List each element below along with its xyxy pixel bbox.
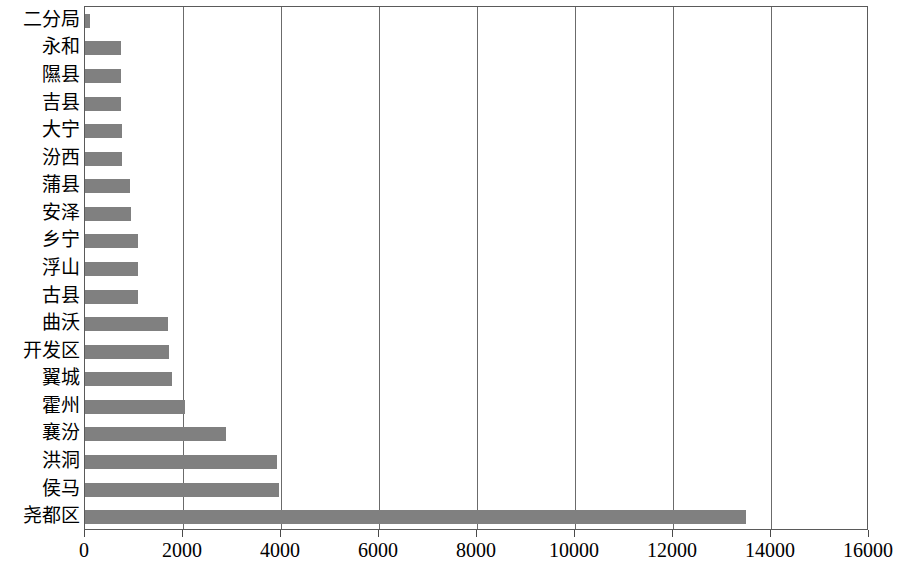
bar	[85, 69, 121, 83]
bar	[85, 262, 138, 276]
gridline	[183, 7, 184, 529]
bar	[85, 207, 131, 221]
gridline	[281, 7, 282, 529]
gridline	[379, 7, 380, 529]
x-axis-tick-mark	[770, 530, 771, 537]
x-axis-tick-label: 2000	[162, 539, 202, 561]
x-axis-tick-mark	[280, 530, 281, 537]
bar	[85, 483, 279, 497]
y-axis-tick-label: 安泽	[0, 203, 80, 222]
x-axis: 0200040006000800010000120001400016000	[84, 530, 868, 575]
bar-chart: 二分局永和隰县吉县大宁汾西蒲县安泽乡宁浮山古县曲沃开发区翼城霍州襄汾洪洞侯马尧都…	[0, 0, 897, 575]
x-axis-tick-mark	[476, 530, 477, 537]
y-axis-tick-label: 洪洞	[0, 451, 80, 470]
y-axis-tick-label: 襄汾	[0, 423, 80, 442]
bar	[85, 41, 121, 55]
bar	[85, 290, 138, 304]
bar	[85, 317, 168, 331]
chart-screenshot: 二分局永和隰县吉县大宁汾西蒲县安泽乡宁浮山古县曲沃开发区翼城霍州襄汾洪洞侯马尧都…	[0, 0, 897, 575]
x-axis-tick-mark	[182, 530, 183, 537]
bar	[85, 179, 130, 193]
x-axis-tick-mark	[868, 530, 869, 537]
x-axis-tick-mark	[574, 530, 575, 537]
bar	[85, 124, 122, 138]
y-axis-tick-label: 古县	[0, 286, 80, 305]
y-axis-tick-label: 乡宁	[0, 230, 80, 249]
y-axis-tick-label: 汾西	[0, 148, 80, 167]
y-axis-tick-label: 永和	[0, 37, 80, 56]
y-axis-tick-label: 侯马	[0, 479, 80, 498]
gridline	[771, 7, 772, 529]
bar	[85, 427, 226, 441]
x-axis-tick-label: 8000	[456, 539, 496, 561]
x-axis-tick-label: 6000	[358, 539, 398, 561]
x-axis-tick-label: 14000	[745, 539, 795, 561]
gridline	[673, 7, 674, 529]
bar	[85, 400, 185, 414]
x-axis-tick-mark	[672, 530, 673, 537]
bar	[85, 97, 121, 111]
bar	[85, 372, 172, 386]
bar	[85, 345, 169, 359]
gridline	[575, 7, 576, 529]
x-axis-tick-label: 0	[79, 539, 89, 561]
x-axis-tick-mark	[84, 530, 85, 537]
gridline	[477, 7, 478, 529]
y-axis-tick-label: 大宁	[0, 120, 80, 139]
bar	[85, 455, 277, 469]
x-axis-tick-label: 16000	[843, 539, 893, 561]
y-axis-tick-label: 翼城	[0, 368, 80, 387]
y-axis-tick-label: 蒲县	[0, 175, 80, 194]
y-axis-tick-label: 隰县	[0, 65, 80, 84]
y-axis-tick-label: 尧都区	[0, 506, 80, 525]
x-axis-tick-label: 12000	[647, 539, 697, 561]
bar	[85, 14, 90, 28]
y-axis-category-labels: 二分局永和隰县吉县大宁汾西蒲县安泽乡宁浮山古县曲沃开发区翼城霍州襄汾洪洞侯马尧都…	[0, 6, 82, 530]
y-axis-tick-label: 霍州	[0, 396, 80, 415]
bar	[85, 234, 138, 248]
x-axis-tick-label: 4000	[260, 539, 300, 561]
x-axis-tick-mark	[378, 530, 379, 537]
bar	[85, 152, 122, 166]
y-axis-tick-label: 吉县	[0, 93, 80, 112]
y-axis-tick-label: 开发区	[0, 341, 80, 360]
y-axis-tick-label: 浮山	[0, 258, 80, 277]
y-axis-tick-label: 曲沃	[0, 313, 80, 332]
plot-area	[84, 6, 868, 530]
y-axis-tick-label: 二分局	[0, 10, 80, 29]
x-axis-tick-label: 10000	[549, 539, 599, 561]
bar	[85, 510, 746, 524]
